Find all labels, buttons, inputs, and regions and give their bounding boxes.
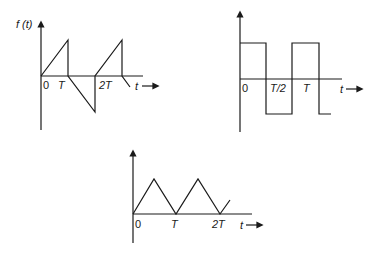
triangle-waveform [133, 179, 230, 214]
tick-label-T: T [303, 82, 311, 94]
tick-label-T: T [58, 79, 66, 91]
waveform-diagram: f (t) 0 T 2T t 0 T/2 T t 0 T 2T t [0, 0, 377, 256]
square-chart: 0 T/2 T t [240, 14, 360, 132]
x-axis-label: t [240, 219, 244, 231]
tick-label-0: 0 [135, 218, 141, 230]
tick-label-half-T: T/2 [270, 82, 286, 94]
tick-label-0: 0 [242, 82, 248, 94]
y-axis-label: f (t) [16, 18, 33, 30]
tick-label-2T: 2T [211, 218, 226, 230]
tick-label-0: 0 [43, 79, 49, 91]
x-axis-label: t [135, 80, 139, 92]
x-axis-label: t [340, 83, 344, 95]
sawtooth-chart: f (t) 0 T 2T t [16, 18, 156, 130]
tick-label-T: T [171, 218, 179, 230]
tick-label-2T: 2T [98, 79, 113, 91]
triangle-chart: 0 T 2T t [133, 153, 260, 243]
